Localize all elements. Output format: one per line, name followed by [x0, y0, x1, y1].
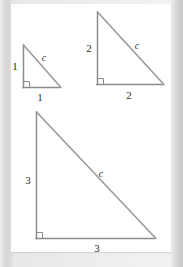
medium-hypotenuse — [98, 12, 164, 84]
medium-right-angle-marker — [98, 79, 104, 85]
large-hypotenuse-label: c — [99, 168, 104, 179]
medium-horizontal-leg-label: 2 — [126, 89, 132, 101]
large-right-angle-marker — [37, 233, 43, 239]
triangles-diagram: 1 1 c 2 2 c 3 3 c — [0, 0, 183, 267]
large-horizontal-leg-label: 3 — [94, 242, 100, 254]
figure-container: 1 1 c 2 2 c 3 3 c — [0, 0, 183, 267]
small-horizontal-leg-label: 1 — [37, 91, 43, 103]
large-vertical-leg-label: 3 — [25, 174, 31, 186]
small-vertical-leg-label: 1 — [12, 60, 18, 72]
small-hypotenuse-label: c — [42, 52, 47, 63]
medium-vertical-leg-label: 2 — [86, 42, 92, 54]
small-right-angle-marker — [24, 82, 30, 88]
triangle-large: 3 3 c — [25, 112, 155, 254]
triangle-medium: 2 2 c — [86, 12, 163, 101]
triangle-small: 1 1 c — [12, 45, 60, 103]
medium-hypotenuse-label: c — [135, 40, 140, 51]
large-hypotenuse — [37, 112, 156, 238]
